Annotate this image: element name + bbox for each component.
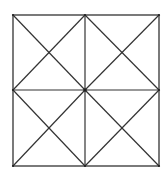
vertex-dot [158,14,160,16]
vertex-dot [83,88,87,92]
vertex-dot [84,14,86,16]
grid-with-diagonals [0,0,168,178]
geometric-diagram [0,0,168,178]
inner-lines [12,14,160,167]
vertex-dot [12,14,14,16]
vertex-dot [158,89,160,91]
vertex-dot [12,89,14,91]
vertex-dot [84,165,86,167]
vertex-dot [158,165,160,167]
vertex-dot [12,165,14,167]
